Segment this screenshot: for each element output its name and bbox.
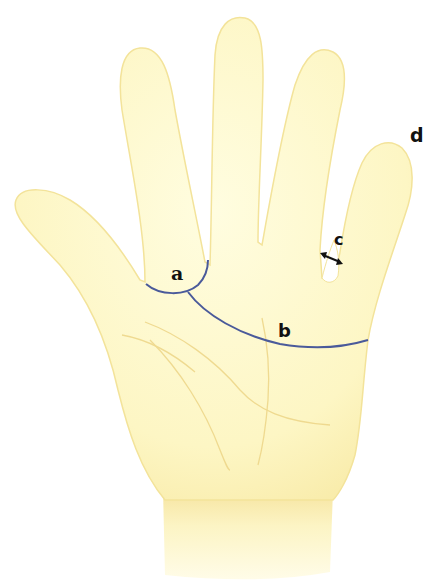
label-a: a <box>171 264 183 283</box>
label-b: b <box>278 322 291 340</box>
label-d: d <box>410 126 424 145</box>
hand-diagram <box>0 0 443 581</box>
hand-silhouette <box>15 17 412 500</box>
label-c: c <box>334 232 343 248</box>
wrist-shape <box>163 490 333 579</box>
